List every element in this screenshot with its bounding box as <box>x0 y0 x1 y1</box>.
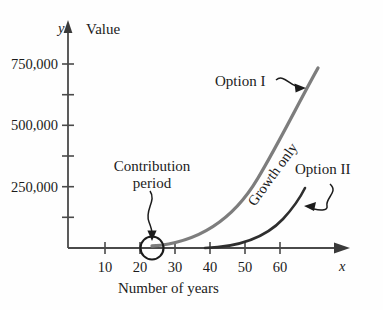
x-axis-arrow-icon <box>334 243 350 254</box>
y-tick-label-500000: 500,000 <box>0 118 58 133</box>
option-one-arrow-curve <box>276 78 296 86</box>
option-two-arrowhead-icon <box>304 202 316 211</box>
contribution-period-label-line2: period <box>90 175 214 192</box>
chart-canvas <box>0 0 383 310</box>
x-tick-label-60: 60 <box>265 260 295 275</box>
x-axis-variable-label: x <box>339 259 345 274</box>
option-one-label: Option I <box>215 74 265 89</box>
y-axis-variable-label: y <box>58 21 64 36</box>
y-axis-arrow-icon <box>64 20 73 33</box>
option-two-arrow-curve <box>314 184 333 210</box>
x-tick-label-10: 10 <box>90 260 120 275</box>
y-tick-label-250000: 250,000 <box>0 180 58 195</box>
x-tick-label-40: 40 <box>195 260 225 275</box>
x-tick-label-20: 20 <box>125 260 155 275</box>
x-axis-title: Number of years <box>118 281 219 296</box>
option-two-label: Option II <box>295 162 350 177</box>
chart-figure: y Value 750,000 500,000 250,000 10 20 30… <box>0 0 383 310</box>
x-tick-label-50: 50 <box>230 260 260 275</box>
x-tick-label-30: 30 <box>160 260 190 275</box>
contribution-period-arrowhead-icon <box>147 231 156 242</box>
y-tick-label-750000: 750,000 <box>0 57 58 72</box>
contribution-period-arrow-curve <box>148 191 152 234</box>
contribution-period-label-line1: Contribution <box>90 158 214 175</box>
y-axis-title: Value <box>86 22 120 37</box>
